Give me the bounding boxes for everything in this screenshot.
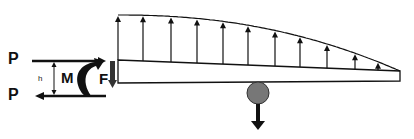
- f-force-arrow-head-icon: [108, 80, 117, 88]
- load-arrow-head-icon: [140, 16, 146, 22]
- label-p-top: P: [8, 50, 19, 67]
- load-arrow-head-icon: [272, 31, 278, 37]
- load-arrow-head-icon: [245, 26, 251, 32]
- beam-diagram: P P h M F: [0, 0, 414, 139]
- load-arrow-head-icon: [375, 63, 381, 69]
- label-force: F: [99, 70, 108, 87]
- label-moment: M: [61, 69, 74, 86]
- load-arrow-head-icon: [324, 45, 330, 51]
- beam-outline: [118, 60, 400, 83]
- load-arrow-head-icon: [352, 54, 358, 60]
- load-arrow-head-icon: [297, 37, 303, 43]
- load-envelope-curve: [118, 15, 400, 71]
- label-p-bottom: P: [8, 86, 19, 103]
- gravity-arrow-shaft: [256, 104, 260, 122]
- f-force-bar: [110, 61, 115, 81]
- diagram-canvas: P P h M F: [0, 0, 414, 139]
- mass-circle: [247, 82, 269, 104]
- load-arrow-head-icon: [220, 22, 226, 28]
- end-loads: P P h M F: [8, 50, 117, 103]
- h-arrow-down-icon: [52, 90, 57, 95]
- gravity-arrow-head-icon: [251, 121, 265, 130]
- p-bottom-arrow-head-icon: [35, 92, 44, 100]
- distributed-load: [115, 15, 400, 71]
- cantilever-beam: [118, 60, 400, 83]
- load-arrow-head-icon: [194, 19, 200, 25]
- load-arrow-head-icon: [115, 16, 121, 22]
- label-h: h: [38, 74, 42, 83]
- h-arrow-up-icon: [52, 62, 57, 67]
- point-mass: [247, 82, 269, 130]
- load-arrow-head-icon: [168, 17, 174, 23]
